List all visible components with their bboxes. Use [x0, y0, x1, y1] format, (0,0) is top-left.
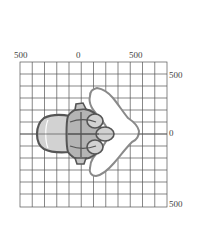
core-bottom-knob [75, 158, 86, 164]
core-top-knob [75, 103, 86, 110]
diagram [0, 0, 199, 226]
